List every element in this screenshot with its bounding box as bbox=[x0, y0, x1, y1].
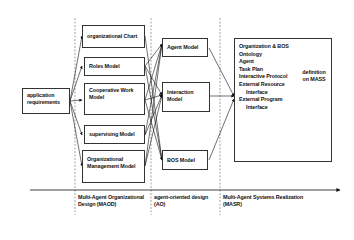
ao-phase-label: agent-oriented design (AO) bbox=[154, 194, 214, 208]
masr-definition-box: Organization & BOS Ontology Agent Task P… bbox=[234, 38, 332, 162]
brace-note: definition on MASS bbox=[300, 69, 328, 83]
masr-item: Organization & BOS bbox=[239, 43, 327, 51]
masr-item: External Program bbox=[239, 96, 327, 104]
interaction-model-label: Interaction Model bbox=[167, 89, 193, 102]
cooperative-work-model-label: Cooperative Work Model bbox=[89, 87, 133, 100]
cooperative-work-model-box: Cooperative Work Model bbox=[84, 83, 145, 115]
supervising-model-label: supervising Model bbox=[89, 131, 135, 137]
roles-model-label: Roles Model bbox=[89, 63, 120, 69]
organizational-management-model-box: Organizational Management Model bbox=[82, 150, 145, 183]
organizational-chart-label: organizational Chart bbox=[87, 33, 137, 39]
roles-model-box: Roles Model bbox=[84, 57, 145, 76]
organizational-chart-box: organizational Chart bbox=[82, 25, 145, 48]
interaction-model-box: Interaction Model bbox=[162, 82, 210, 112]
masr-phase-label: Multi-Agent Systems Realization (MASR) bbox=[223, 194, 313, 208]
organizational-management-model-label: Organizational Management Model bbox=[87, 156, 135, 169]
masr-item: Agent bbox=[239, 58, 327, 66]
masr-item: Interface bbox=[239, 89, 327, 97]
bos-model-label: BOS Model bbox=[167, 157, 195, 163]
bos-model-box: BOS Model bbox=[162, 150, 208, 170]
application-requirements-label: application requirements bbox=[27, 92, 60, 105]
agent-model-label: Agent Model bbox=[167, 44, 198, 50]
maod-phase-label: Multi-Agent Organizational Design (MAOD) bbox=[78, 194, 146, 208]
supervising-model-box: supervising Model bbox=[84, 125, 145, 144]
masr-item: Interface bbox=[239, 104, 327, 112]
agent-model-box: Agent Model bbox=[162, 38, 208, 57]
masr-item: Ontology bbox=[239, 51, 327, 59]
application-requirements-box: application requirements bbox=[22, 88, 70, 114]
